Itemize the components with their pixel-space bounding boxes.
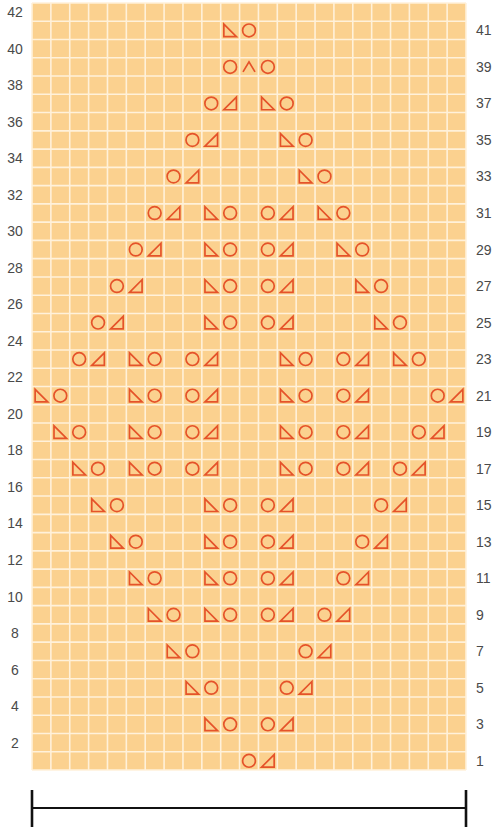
knitting-chart: 24681012141618202224262830323436384042 1… [0, 0, 498, 831]
row-number-label: 6 [11, 662, 19, 678]
row-number-label: 10 [7, 589, 23, 605]
row-number-label: 16 [7, 479, 23, 495]
row-number-label: 8 [11, 625, 19, 641]
row-labels-left: 24681012141618202224262830323436384042 [7, 4, 23, 750]
row-number-label: 34 [7, 150, 23, 166]
row-number-label: 18 [7, 442, 23, 458]
row-number-label: 4 [11, 698, 19, 714]
row-number-label: 31 [476, 205, 492, 221]
repeat-bracket [32, 790, 466, 827]
row-number-label: 11 [476, 570, 491, 586]
row-number-label: 22 [7, 369, 23, 385]
row-number-label: 32 [7, 187, 23, 203]
row-number-label: 9 [476, 607, 484, 623]
row-number-label: 33 [476, 168, 492, 184]
row-number-label: 41 [476, 22, 492, 38]
row-number-label: 26 [7, 296, 23, 312]
row-number-label: 21 [476, 388, 492, 404]
row-number-label: 14 [7, 515, 23, 531]
row-number-label: 39 [476, 59, 492, 75]
row-number-label: 20 [7, 406, 23, 422]
row-number-label: 24 [7, 333, 23, 349]
row-number-label: 42 [7, 4, 23, 20]
row-number-label: 37 [476, 95, 492, 111]
row-number-label: 5 [476, 680, 484, 696]
row-number-label: 27 [476, 278, 492, 294]
row-number-label: 12 [7, 552, 23, 568]
row-number-label: 29 [476, 242, 492, 258]
row-labels-right: 1357911131517192123252729313335373941 [476, 22, 492, 768]
row-number-label: 1 [476, 753, 484, 769]
row-number-label: 30 [7, 223, 23, 239]
row-number-label: 15 [476, 497, 492, 513]
row-number-label: 19 [476, 424, 492, 440]
row-number-label: 28 [7, 260, 23, 276]
row-number-label: 40 [7, 41, 23, 57]
row-number-label: 25 [476, 315, 492, 331]
row-number-label: 13 [476, 534, 492, 550]
row-number-label: 36 [7, 114, 23, 130]
row-number-label: 17 [476, 461, 492, 477]
row-number-label: 2 [11, 735, 19, 751]
row-number-label: 3 [476, 716, 484, 732]
row-number-label: 7 [476, 643, 484, 659]
row-number-label: 35 [476, 132, 492, 148]
row-number-label: 38 [7, 77, 23, 93]
chart-grid [32, 3, 466, 770]
row-number-label: 23 [476, 351, 492, 367]
